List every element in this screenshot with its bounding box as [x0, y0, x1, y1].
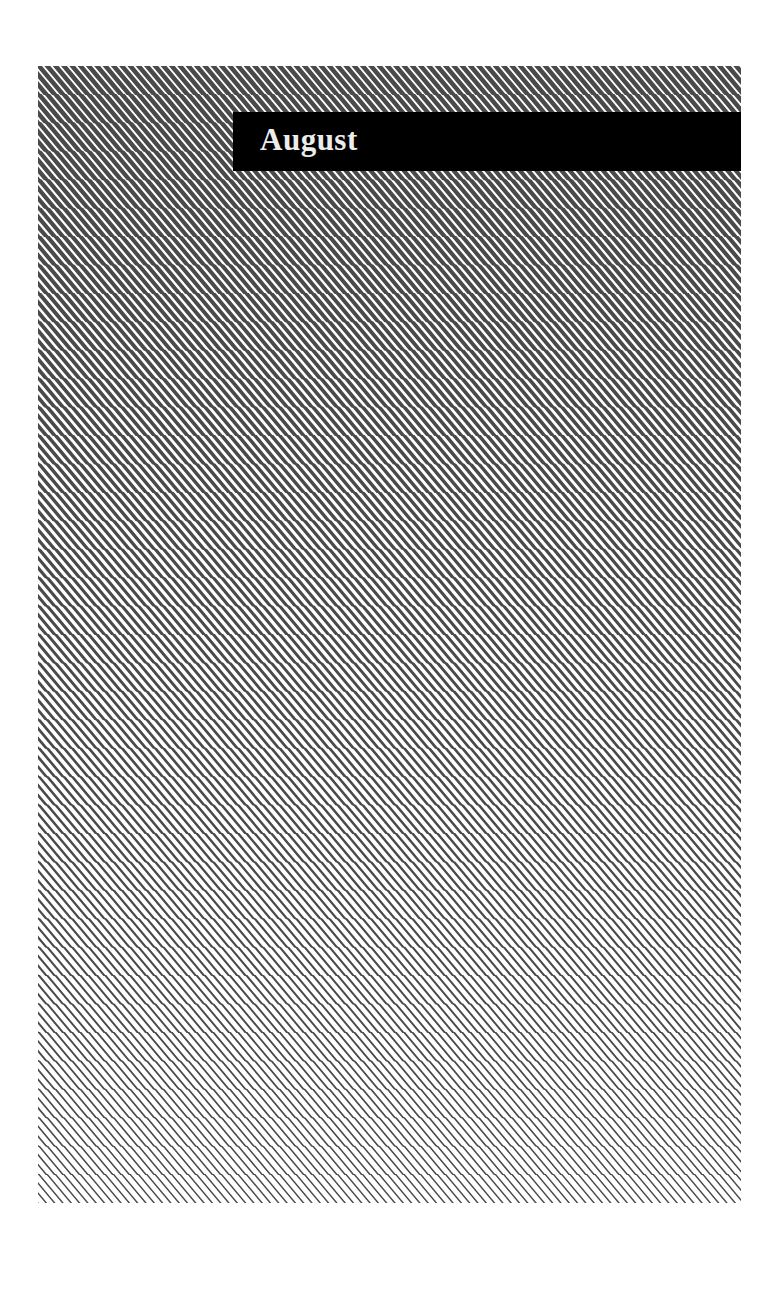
- month-label-bar: August: [233, 112, 741, 171]
- month-label: August: [260, 122, 358, 158]
- striped-artwork: [38, 66, 741, 1203]
